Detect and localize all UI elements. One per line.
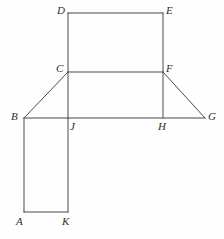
edge-c-b xyxy=(24,72,68,118)
vertex-label-d: D xyxy=(57,5,65,16)
vertex-label-k: K xyxy=(62,216,69,227)
geometry-diagram: ABCDEFGHJK xyxy=(0,0,224,239)
vertex-label-f: F xyxy=(166,63,173,74)
vertex-label-a: A xyxy=(16,216,23,227)
vertex-label-h: H xyxy=(158,121,166,132)
vertex-label-j: J xyxy=(70,121,75,132)
vertex-label-c: C xyxy=(56,63,63,74)
vertex-label-e: E xyxy=(166,5,173,16)
edge-f-g xyxy=(163,72,205,118)
edge-group xyxy=(24,13,205,212)
vertex-label-g: G xyxy=(208,111,216,122)
figure-canvas xyxy=(0,0,224,239)
vertex-label-b: B xyxy=(11,111,18,122)
